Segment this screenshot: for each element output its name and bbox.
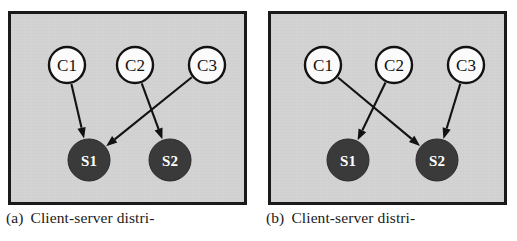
edge-group-a	[71, 77, 191, 146]
arrowhead-c2-to-s1	[358, 128, 367, 140]
client-node-c1[interactable]: C1	[305, 47, 341, 83]
client-node-label: C1	[313, 56, 333, 75]
client-server-graph-a: C1C2C3S1S2	[11, 14, 244, 202]
caption-text-a: Client-server distri-	[31, 209, 155, 226]
figure-panel-b: C1C2C3S1S2 (b)Client-server distri-	[258, 0, 517, 241]
server-node-label: S1	[340, 153, 356, 169]
caption-tag-a: (a)	[6, 209, 24, 226]
server-node-label: S1	[81, 153, 97, 169]
arrowhead-c1-to-s1	[77, 127, 85, 139]
client-node-c2[interactable]: C2	[376, 47, 412, 83]
edge-c1-to-s2	[338, 77, 412, 138]
caption-a: (a)Client-server distri-	[0, 209, 264, 227]
edge-c1-to-s1	[71, 84, 81, 128]
figure-root: C1C2C3S1S2 (a)Client-server distri- C1C2…	[0, 0, 517, 241]
arrowhead-c3-to-s2	[443, 127, 451, 139]
server-node-label: S2	[162, 153, 178, 169]
arrowhead-c2-to-s2	[155, 128, 163, 140]
diagram-frame-b: C1C2C3S1S2	[268, 11, 507, 205]
caption-tag-b: (b)	[266, 209, 284, 226]
server-node-s1[interactable]: S1	[327, 139, 369, 181]
client-server-graph-b: C1C2C3S1S2	[271, 14, 504, 202]
server-node-s2[interactable]: S2	[149, 139, 191, 181]
edge-group-b	[338, 77, 460, 145]
client-node-label: C3	[456, 56, 476, 75]
client-node-c2[interactable]: C2	[117, 47, 153, 83]
edge-c3-to-s2	[447, 84, 461, 129]
client-node-label: C3	[197, 56, 217, 75]
caption-text-b: Client-server distri-	[291, 209, 415, 226]
edge-c3-to-s1	[115, 77, 192, 139]
node-group-b: C1C2C3S1S2	[305, 47, 484, 181]
node-group-a: C1C2C3S1S2	[49, 47, 225, 181]
client-node-label: C2	[384, 56, 404, 75]
client-node-c3[interactable]: C3	[448, 47, 484, 83]
client-node-c3[interactable]: C3	[189, 47, 225, 83]
caption-b: (b)Client-server distri-	[258, 209, 517, 227]
client-node-label: C2	[125, 56, 145, 75]
server-node-label: S2	[429, 153, 445, 169]
client-node-label: C1	[57, 56, 77, 75]
edge-c2-to-s1	[362, 83, 385, 131]
server-node-s1[interactable]: S1	[68, 139, 110, 181]
figure-panel-a: C1C2C3S1S2 (a)Client-server distri-	[0, 0, 258, 241]
server-node-s2[interactable]: S2	[416, 139, 458, 181]
diagram-frame-a: C1C2C3S1S2	[8, 11, 247, 205]
client-node-c1[interactable]: C1	[49, 47, 85, 83]
